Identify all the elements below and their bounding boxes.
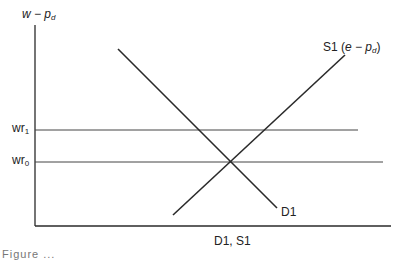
demand-curve-d1 <box>118 49 277 208</box>
y-axis-label-main: w − p <box>22 7 51 21</box>
supply-label-suffix: ) <box>377 40 381 54</box>
wr0-label: wr0 <box>12 154 29 166</box>
figure-caption: Figure ... <box>2 248 55 260</box>
wr0-label-sub: 0 <box>25 159 29 168</box>
y-axis-label: w − pd <box>22 8 55 20</box>
supply-label-prefix: S1 ( <box>323 40 345 54</box>
wr1-label-main: wr <box>12 121 25 135</box>
wr0-label-main: wr <box>12 153 25 167</box>
y-axis-label-sub: d <box>51 13 55 22</box>
supply-curve-label: S1 (e − pd) <box>323 41 381 53</box>
wr1-label: wr1 <box>12 122 29 134</box>
wr1-label-sub: 1 <box>25 127 29 136</box>
x-axis-label: D1, S1 <box>214 235 251 247</box>
supply-label-sub: d <box>372 46 376 55</box>
demand-curve-label: D1 <box>281 206 296 218</box>
supply-label-main: e − p <box>345 40 372 54</box>
